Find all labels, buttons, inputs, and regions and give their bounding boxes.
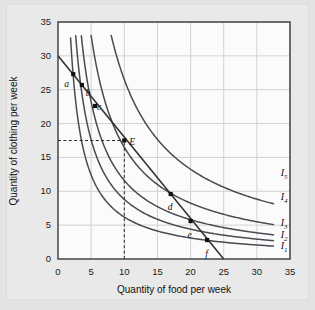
point-label-a: a [64,80,69,90]
curve-label-I3: I3 [281,218,288,231]
x-tick-label-30: 30 [252,267,263,277]
curve-label-I4: I4 [281,192,288,205]
point-label-e: e [188,231,192,241]
x-axis-title: Quantity of food per week [117,285,231,295]
x-tick-label-20: 20 [185,267,196,277]
x-tick-label-25: 25 [218,267,229,277]
y-tick-label-0: 0 [0,254,51,264]
point-marker-b [80,83,84,87]
y-tick-label-35: 35 [0,17,51,27]
curve-label-subscript: 4 [284,197,288,205]
x-tick-label-5: 5 [88,267,93,277]
point-marker-d [169,192,173,196]
curve-label-I5: I5 [281,168,288,181]
figure-container: 0510152025303505101520253035 Quantity of… [0,0,315,310]
point-label-f: f [205,250,208,260]
y-tick-label-30: 30 [0,51,51,61]
x-tick-label-10: 10 [119,267,130,277]
point-label-b: b [86,89,91,99]
x-tick-label-35: 35 [285,267,296,277]
curve-label-I2: I2 [281,230,288,243]
point-marker-f [205,238,209,242]
y-tick-label-5: 5 [0,220,51,230]
y-axis-title: Quantity of clothing per week [9,77,19,206]
curve-label-subscript: 1 [284,246,288,254]
x-tick-label-0: 0 [55,267,60,277]
curve-label-subscript: 2 [284,235,288,243]
curve-label-subscript: 5 [284,173,288,181]
x-tick-label-15: 15 [152,267,163,277]
curve-label-subscript: 3 [284,223,288,231]
point-marker-e [188,219,192,223]
point-marker-E [122,138,126,142]
point-marker-a [71,72,75,76]
point-label-E: E [129,138,135,148]
curve-label-I1: I1 [281,241,288,254]
point-label-d: d [168,203,173,213]
point-label-c: c [97,103,101,113]
